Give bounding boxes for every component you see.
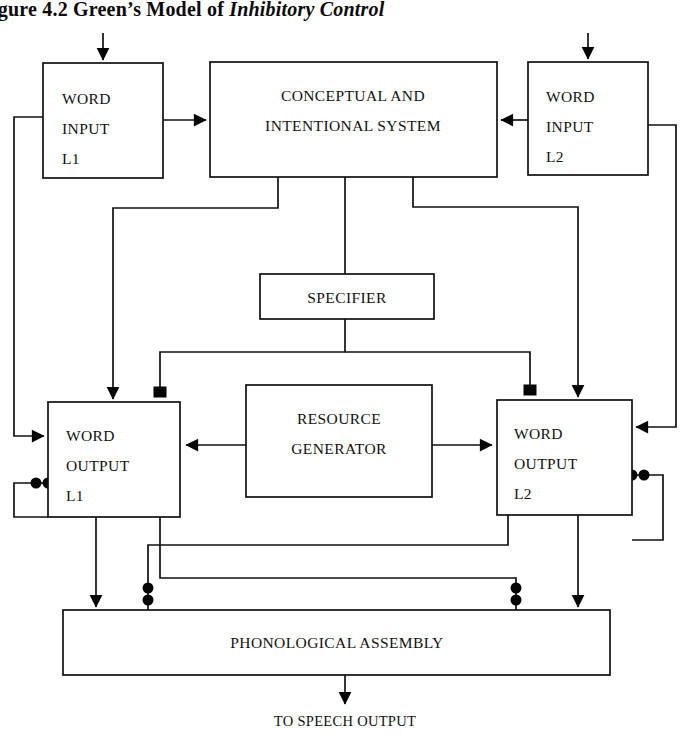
node-conceptual-intentional-system[interactable]: CONCEPTUAL AND INTENTIONAL SYSTEM: [210, 62, 497, 177]
inhibitory-terminal-l2-icon: [524, 385, 536, 395]
word-output-l1-line1: WORD: [66, 427, 115, 444]
word-output-l2-line2: OUTPUT: [514, 455, 578, 472]
word-output-l2-line1: WORD: [514, 425, 563, 442]
node-word-output-l1[interactable]: WORD OUTPUT L1: [48, 402, 180, 517]
phonological-assembly-label: PHONOLOGICAL ASSEMBLY: [230, 634, 443, 651]
edge-word-output-l1-crossed-to-phonological: [160, 517, 516, 610]
node-word-input-l2[interactable]: WORD INPUT L2: [528, 62, 648, 175]
suppression-dot-left-upper: [143, 583, 154, 594]
specifier-label: SPECIFIER: [307, 289, 387, 306]
word-output-l1-line2: OUTPUT: [66, 457, 130, 474]
resource-generator-line1: RESOURCE: [297, 410, 381, 427]
node-word-input-l1[interactable]: WORD INPUT L1: [43, 63, 163, 178]
word-output-l2-line3: L2: [514, 485, 532, 502]
word-output-l1-line3: L1: [66, 487, 84, 504]
word-input-l2-line2: INPUT: [546, 118, 594, 135]
word-input-l1-line1: WORD: [62, 90, 111, 107]
inhibitory-control-diagram: WORD INPUT L1 CONCEPTUAL AND INTENTIONAL…: [0, 0, 680, 743]
edge-conceptual-to-word-output-l1: [113, 177, 278, 399]
edge-word-output-l2-self-loop: [630, 475, 663, 540]
resource-generator-line2: GENERATOR: [291, 440, 387, 457]
word-input-l1-line3: L1: [62, 150, 80, 167]
word-input-l1-line2: INPUT: [62, 120, 110, 137]
node-phonological-assembly[interactable]: PHONOLOGICAL ASSEMBLY: [63, 610, 610, 675]
word-input-l2-line3: L2: [546, 148, 564, 165]
node-word-output-l2[interactable]: WORD OUTPUT L2: [497, 400, 632, 515]
suppression-dot-left-lower: [143, 595, 154, 606]
edge-word-output-l1-self-loop: [14, 483, 50, 517]
node-resource-generator[interactable]: RESOURCE GENERATOR: [246, 385, 432, 497]
figure-page: igure 4.2 Green’s Model of Inhibitory Co…: [0, 0, 680, 743]
suppression-dot-l2-outer: [639, 470, 650, 481]
conceptual-system-line1: CONCEPTUAL AND: [281, 87, 425, 104]
suppression-dot-l1-outer: [31, 478, 42, 489]
conceptual-system-line2: INTENTIONAL SYSTEM: [265, 117, 441, 134]
edge-word-input-l1-to-word-output-l1: [14, 117, 44, 436]
suppression-dot-right-upper: [511, 583, 522, 594]
suppression-dot-right-lower: [511, 595, 522, 606]
speech-output-caption: TO SPEECH OUTPUT: [274, 713, 416, 729]
edge-word-output-l2-crossed-to-phonological: [148, 515, 508, 610]
node-specifier[interactable]: SPECIFIER: [260, 274, 434, 319]
word-input-l2-line1: WORD: [546, 88, 595, 105]
edge-conceptual-to-word-output-l2: [413, 177, 578, 397]
edge-specifier-to-word-output-l1-inhibit: [160, 319, 345, 395]
inhibitory-terminal-l1-icon: [154, 387, 166, 397]
